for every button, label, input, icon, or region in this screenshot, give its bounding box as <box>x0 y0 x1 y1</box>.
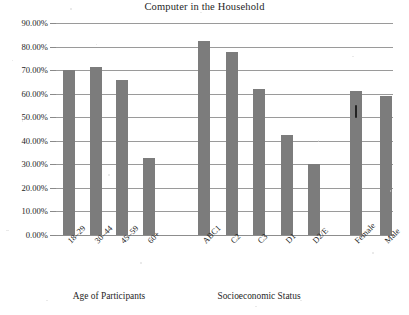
bar <box>90 67 102 235</box>
group-axis-label: Socioeconomic Status <box>179 291 339 301</box>
gridline <box>56 188 393 189</box>
gridline <box>56 94 393 95</box>
bar <box>198 41 210 235</box>
scan-speckle <box>300 300 302 301</box>
chart-title: Computer in the Household <box>0 1 409 12</box>
y-axis-tick-label: 30.00% <box>0 159 48 169</box>
bar <box>116 80 128 235</box>
y-axis-tick-label: 40.00% <box>0 136 48 146</box>
scan-speckle <box>140 262 142 264</box>
y-axis-tick-label: 10.00% <box>0 206 48 216</box>
gridline <box>56 47 393 48</box>
plot-area <box>56 23 393 235</box>
group-axis-label: Age of Participants <box>29 291 189 301</box>
bar <box>380 96 392 235</box>
scan-speckle <box>96 44 97 45</box>
scan-speckle <box>200 12 202 13</box>
gridline <box>56 70 393 71</box>
y-axis-tick-label: 90.00% <box>0 18 48 28</box>
y-axis-tick-label: 70.00% <box>0 65 48 75</box>
scan-speckle <box>390 190 391 192</box>
bar <box>281 135 293 235</box>
ink-smudge-artifact <box>355 105 357 118</box>
bar <box>63 70 75 235</box>
y-axis-tick-label: 20.00% <box>0 183 48 193</box>
scan-speckle <box>46 300 48 301</box>
gridline <box>56 211 393 212</box>
y-axis-tick-label: 0.00% <box>0 230 48 240</box>
scan-speckle <box>22 120 23 122</box>
y-axis-tick-label: 60.00% <box>0 89 48 99</box>
scan-speckle <box>70 8 72 10</box>
scan-speckle <box>6 230 9 231</box>
scan-speckle <box>318 140 319 142</box>
gridline <box>56 23 393 24</box>
y-axis-tick-label: 50.00% <box>0 112 48 122</box>
scan-speckle <box>12 60 13 61</box>
bar-chart: Computer in the Household 90.00%80.00%70… <box>0 0 409 315</box>
gridline <box>56 141 393 142</box>
scan-speckle <box>108 174 110 176</box>
gridline <box>56 164 393 165</box>
scan-speckle <box>372 252 374 254</box>
scan-speckle <box>255 306 257 307</box>
scan-speckle <box>352 56 354 57</box>
bar <box>253 89 265 236</box>
bar <box>143 158 155 235</box>
gridline <box>56 117 393 118</box>
bar <box>308 164 320 235</box>
y-axis-tick-label: 80.00% <box>0 42 48 52</box>
bar <box>226 52 238 235</box>
